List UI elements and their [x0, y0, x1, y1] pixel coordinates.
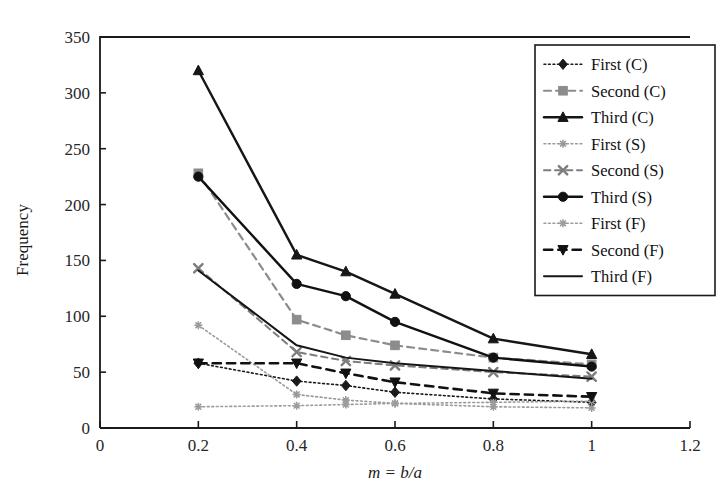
- data-point-marker: [489, 353, 498, 362]
- data-point-marker: [391, 341, 400, 350]
- x-axis-tick-label: 1.2: [679, 436, 700, 455]
- y-axis-tick-label: 300: [65, 84, 91, 103]
- x-axis-title: m = b/a: [368, 463, 422, 482]
- data-point-marker: [292, 279, 301, 288]
- x-axis-tick-label: 0.8: [483, 436, 504, 455]
- legend-marker-sample: [558, 192, 567, 201]
- y-axis-tick-label: 200: [65, 196, 91, 215]
- x-axis-tick-label: 0.6: [384, 436, 405, 455]
- legend-item-label: First (F): [591, 214, 646, 233]
- legend-item-label: Third (C): [591, 108, 654, 127]
- data-point-marker: [587, 362, 596, 371]
- legend-item-label: Third (F): [591, 267, 652, 286]
- data-point-marker: [293, 402, 301, 410]
- x-axis-tick-label: 0.4: [286, 436, 308, 455]
- data-point-marker: [390, 317, 399, 326]
- legend-item-label: Second (S): [591, 161, 664, 180]
- chart-legend: First (C)Second (C)Third (C)First (S)Sec…: [535, 45, 715, 296]
- chart-canvas: 05010015020025030035000.20.40.60.811.2 F…: [0, 0, 728, 497]
- y-axis-tick-label: 350: [65, 28, 91, 47]
- frequency-vs-aspect-ratio-chart: 05010015020025030035000.20.40.60.811.2 F…: [0, 0, 728, 497]
- y-axis-tick-label: 0: [82, 419, 91, 438]
- data-point-marker: [194, 403, 202, 411]
- legend-item-label: First (S): [591, 135, 646, 154]
- data-point-marker: [194, 172, 203, 181]
- legend-item-label: First (C): [591, 55, 647, 74]
- y-axis-title: Frequency: [13, 204, 32, 276]
- data-point-marker: [341, 292, 350, 301]
- legend-item-label: Second (C): [591, 82, 666, 101]
- x-axis-tick-label: 1: [587, 436, 596, 455]
- y-axis-tick-label: 100: [65, 307, 91, 326]
- data-point-marker: [194, 321, 202, 329]
- y-axis-tick-label: 250: [65, 140, 91, 159]
- legend-item-label: Second (F): [591, 241, 664, 260]
- x-axis-tick-label: 0.2: [188, 436, 209, 455]
- y-axis-tick-label: 50: [73, 363, 90, 382]
- data-point-marker: [293, 390, 301, 398]
- data-point-marker: [391, 399, 399, 407]
- legend-marker-sample: [559, 219, 567, 227]
- legend-marker-sample: [559, 86, 568, 95]
- data-point-marker: [342, 331, 351, 340]
- legend-marker-sample: [559, 140, 567, 148]
- y-axis-tick-label: 150: [65, 251, 91, 270]
- data-point-marker: [292, 315, 301, 324]
- x-axis-tick-label: 0: [96, 436, 105, 455]
- data-point-marker: [342, 401, 350, 409]
- legend-item-label: Third (S): [591, 188, 652, 207]
